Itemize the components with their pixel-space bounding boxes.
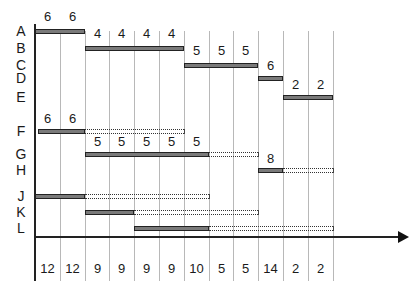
column-total: 12 [60, 262, 85, 275]
row-label-k: K [14, 205, 28, 219]
float-slack-l [209, 226, 333, 231]
row-label-j: J [14, 189, 28, 203]
row-label-l: L [14, 221, 28, 235]
row-label-f: F [14, 124, 28, 138]
resource-value: 4 [109, 27, 134, 40]
grid-line [283, 31, 284, 281]
resource-value: 5 [184, 135, 209, 148]
resource-value: 5 [159, 135, 184, 148]
column-total: 2 [308, 262, 333, 275]
column-total: 9 [85, 262, 110, 275]
row-label-d: D [14, 71, 28, 85]
activity-bar-h [258, 168, 283, 173]
activity-bar-b [85, 46, 184, 51]
float-slack-g [209, 152, 258, 157]
activity-bar-g [85, 152, 209, 157]
resource-value: 5 [134, 135, 159, 148]
grid-line [60, 31, 61, 281]
column-total: 9 [159, 262, 184, 275]
activity-bar-l [134, 226, 209, 231]
float-slack-j [85, 194, 209, 199]
column-total: 10 [184, 262, 209, 275]
resource-gantt-diagram: A66B4444C555D6E22F66G55555H8JKL 12129999… [0, 0, 419, 290]
row-label-a: A [14, 24, 28, 38]
column-total: 14 [258, 262, 283, 275]
grid-line [333, 31, 334, 281]
resource-value: 4 [134, 27, 159, 40]
row-label-h: H [14, 163, 28, 177]
activity-bar-k [85, 210, 134, 215]
float-slack-k [134, 210, 258, 215]
column-total: 12 [35, 262, 60, 275]
resource-value: 5 [85, 135, 110, 148]
resource-value: 5 [233, 44, 258, 57]
resource-value: 4 [85, 27, 110, 40]
resource-value: 6 [60, 10, 85, 23]
grid-line [308, 31, 309, 281]
resource-value: 6 [60, 112, 85, 125]
activity-bar-e [283, 95, 333, 100]
float-slack-h [283, 168, 333, 173]
resource-value: 6 [35, 112, 60, 125]
column-total: 9 [134, 262, 159, 275]
activity-bar-d [258, 76, 283, 81]
resource-value: 5 [184, 44, 209, 57]
axis-arrow-icon [398, 231, 409, 243]
vertical-axis [34, 24, 36, 281]
column-total: 5 [209, 262, 234, 275]
column-total: 5 [233, 262, 258, 275]
resource-value: 6 [258, 59, 283, 72]
activity-bar-c [184, 63, 258, 68]
resource-value: 2 [308, 78, 333, 91]
row-label-e: E [14, 90, 28, 104]
activity-bar-a [35, 29, 85, 34]
time-axis [34, 236, 400, 238]
resource-value: 4 [159, 27, 184, 40]
row-label-g: G [14, 147, 28, 161]
activity-bar-j [35, 194, 85, 199]
column-total: 9 [109, 262, 134, 275]
resource-value: 5 [109, 135, 134, 148]
activity-bar-f [38, 129, 85, 134]
resource-value: 8 [258, 152, 283, 165]
resource-value: 6 [35, 10, 60, 23]
resource-value: 2 [283, 78, 308, 91]
resource-value: 5 [209, 44, 234, 57]
column-total: 2 [283, 262, 308, 275]
row-label-b: B [14, 41, 28, 55]
